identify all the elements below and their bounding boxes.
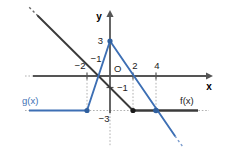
x-axis-arrow-icon (206, 72, 213, 79)
x-tick-label-2: 2 (132, 60, 137, 71)
g-function-label: g(x) (22, 95, 38, 106)
series-f (28, 6, 198, 113)
y-tick-label-neg1: −1 (117, 82, 128, 93)
f-function-label: f(x) (180, 95, 194, 106)
x-tick-label-4: 4 (154, 60, 159, 71)
y-axis-label: y (96, 11, 102, 22)
series-g (29, 38, 183, 147)
function-graph-figure: y x O −2 −1 2 4 3 −1 −3 g(x) f(x) (0, 0, 225, 152)
y-tick-label-neg3: −3 (99, 113, 110, 124)
g-dashed-extension (175, 136, 183, 147)
g-point-0-3 (107, 38, 112, 43)
graph-svg: y x O −2 −1 2 4 3 −1 −3 g(x) f(x) (0, 0, 225, 152)
origin-label: O (114, 63, 121, 74)
x-tick-label-neg2: −2 (75, 60, 86, 71)
g-point-neg2-neg3 (84, 108, 89, 113)
g-point-4-neg3 (153, 108, 159, 114)
f-point-2-neg3 (130, 108, 135, 113)
x-axis-label: x (206, 81, 212, 92)
f-dashed-extension (28, 6, 38, 16)
x-tick-label-neg1: −1 (91, 53, 102, 64)
y-tick-label-3: 3 (98, 35, 103, 46)
y-axis-arrow-icon (106, 10, 113, 17)
